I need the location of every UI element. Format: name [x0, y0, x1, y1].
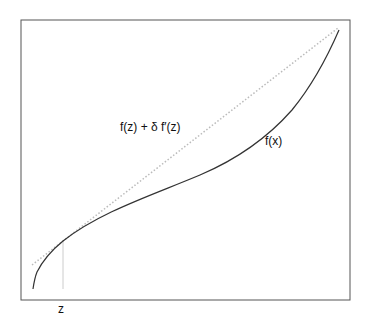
diagram-canvas	[0, 0, 370, 327]
tangent-label: f(z) + δ f′(z)	[120, 120, 181, 134]
function-label: f(x)	[265, 134, 282, 148]
z-label: z	[58, 302, 64, 316]
plot-frame	[21, 20, 350, 300]
tangent-line	[32, 28, 338, 265]
function-curve	[33, 30, 339, 289]
